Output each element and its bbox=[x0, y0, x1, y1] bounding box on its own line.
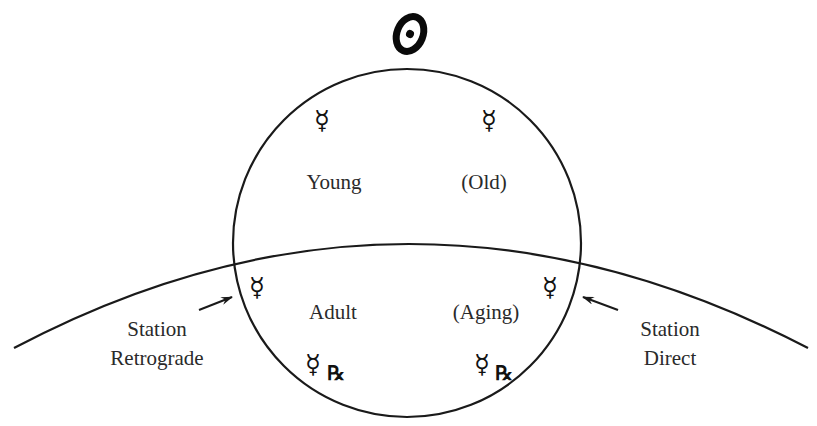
mercury-icon-old: ☿ bbox=[481, 105, 497, 135]
label-station-direct-line2: Direct bbox=[644, 346, 697, 370]
label-station-retrograde-line1: Station bbox=[127, 317, 187, 341]
mercury-cycle-diagram: ☿ ☿ Young (Old) ☿ ☿ Adult (Aging) ☿ ℞ ☿ … bbox=[0, 0, 817, 426]
mercury-retrograde-icon-aging: ☿ ℞ bbox=[474, 349, 513, 384]
svg-text:☿: ☿ bbox=[305, 349, 321, 379]
label-station-direct-line1: Station bbox=[640, 317, 700, 341]
label-aging: (Aging) bbox=[453, 300, 520, 324]
svg-text:℞: ℞ bbox=[327, 362, 345, 384]
label-young: Young bbox=[306, 170, 362, 194]
label-adult: Adult bbox=[309, 300, 357, 324]
label-station-retrograde-line2: Retrograde bbox=[110, 346, 203, 370]
svg-text:☿: ☿ bbox=[474, 349, 490, 379]
mercury-retrograde-icon-adult: ☿ ℞ bbox=[305, 349, 345, 384]
mercury-icon-station-direct: ☿ bbox=[542, 272, 558, 302]
sun-icon bbox=[391, 12, 429, 55]
mercury-icon-young: ☿ bbox=[314, 105, 330, 135]
arrow-station-direct bbox=[583, 297, 618, 310]
svg-text:℞: ℞ bbox=[495, 362, 513, 384]
label-old: (Old) bbox=[461, 170, 507, 194]
arrow-station-retrograde bbox=[199, 297, 232, 310]
mercury-icon-station-retrograde: ☿ bbox=[249, 272, 265, 302]
